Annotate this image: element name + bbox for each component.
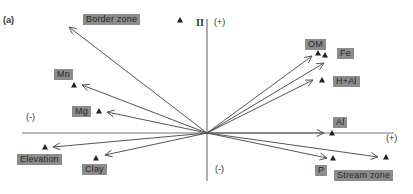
vector-clay (105, 133, 207, 155)
triangle-marker-icon (93, 155, 99, 161)
vector-stream-zone (207, 133, 378, 157)
variable-label: Al (333, 117, 347, 128)
vector-h-al (207, 80, 313, 133)
variable-label: H+Al (333, 76, 360, 87)
variable-label: Clay (82, 164, 107, 175)
axis-ii-label: II (196, 18, 204, 28)
triangle-marker-icon (96, 108, 102, 114)
variable-label: OM (305, 39, 326, 50)
arrowhead-icon (316, 63, 324, 70)
biplot-canvas (0, 0, 413, 194)
triangle-marker-icon (71, 82, 77, 88)
triangle-marker-icon (42, 144, 48, 150)
vector-border-zone (69, 27, 207, 133)
variable-label: Mg (72, 106, 91, 117)
vector-elevation (53, 133, 207, 147)
triangle-marker-icon (319, 77, 325, 83)
vector-mn (82, 85, 207, 133)
triangle-marker-icon (177, 17, 183, 23)
variable-label: Elevation (17, 154, 62, 165)
vector-om (207, 56, 312, 133)
vector-p (207, 133, 327, 158)
variable-label: Stream zone (334, 170, 393, 181)
vector-fe (207, 63, 324, 133)
axis-left-sign: (-) (26, 112, 35, 122)
variable-label: Fe (337, 48, 354, 59)
triangle-marker-icon (315, 50, 321, 56)
triangle-marker-icon (383, 154, 389, 160)
axis-bottom-sign: (-) (215, 164, 224, 174)
panel-label: (a) (3, 15, 14, 25)
triangle-marker-icon (330, 155, 336, 161)
axis-top-sign: (+) (214, 17, 225, 27)
triangle-marker-icon (322, 52, 328, 58)
ordination-biplot: (a) II (+) (-) (-) (+) Border zoneMnMgEl… (0, 0, 413, 194)
variable-label: P (315, 165, 327, 176)
vector-mg (107, 112, 207, 133)
variable-label: Mn (54, 69, 73, 80)
variable-label: Border zone (83, 14, 140, 25)
axis-right-sign: (+) (386, 133, 397, 143)
